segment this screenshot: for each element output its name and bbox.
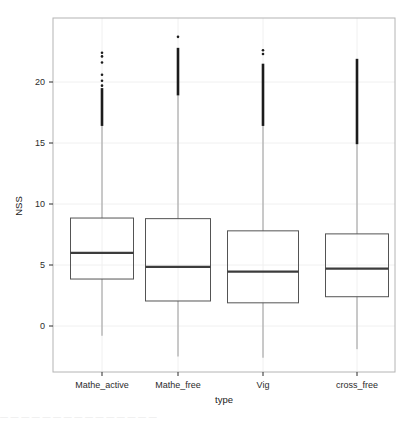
outlier-point: [101, 51, 104, 54]
outlier-point: [101, 61, 104, 64]
y-axis-title: NSS: [13, 196, 24, 216]
x-tick-label-Vig: Vig: [257, 380, 270, 390]
outlier-point: [101, 84, 104, 87]
outlier-point: [101, 73, 104, 76]
y-tick-label: 0: [40, 321, 45, 331]
figure-container: 05101520 Mathe_activeMathe_freeVigcross_…: [0, 0, 412, 423]
boxplot-chart: 05101520 Mathe_activeMathe_freeVigcross_…: [0, 0, 412, 423]
x-axis-title: type: [215, 394, 233, 405]
y-tick-label: 15: [35, 138, 45, 148]
y-tick-label: 5: [40, 260, 45, 270]
boxplot-Mathe_active: [71, 51, 134, 335]
outlier-point: [101, 79, 104, 82]
cut-off-caption: — — — — — — — — — — — — — — —: [0, 412, 412, 423]
x-tick-label-Mathe_active: Mathe_active: [75, 380, 129, 390]
y-axis: 05101520: [35, 77, 53, 331]
outlier-point: [177, 36, 180, 39]
outlier-cluster: [177, 48, 180, 96]
outlier-point: [262, 49, 265, 52]
plot-border: [53, 18, 395, 372]
x-tick-label-cross_free: cross_free: [336, 380, 378, 390]
x-axis: Mathe_activeMathe_freeVigcross_free: [75, 372, 378, 390]
outlier-point: [262, 53, 265, 56]
y-tick-label: 20: [35, 77, 45, 87]
x-tick-label-Mathe_free: Mathe_free: [155, 380, 201, 390]
outlier-point: [101, 55, 104, 58]
gridlines: [53, 18, 395, 372]
outlier-cluster: [262, 64, 265, 126]
box-series: [71, 36, 389, 358]
plot-frame: [53, 18, 395, 372]
outlier-cluster: [356, 59, 359, 144]
y-tick-label: 10: [35, 199, 45, 209]
boxplot-Vig: [228, 49, 299, 358]
boxplot-Mathe_free: [146, 36, 211, 357]
outlier-cluster: [101, 88, 104, 126]
